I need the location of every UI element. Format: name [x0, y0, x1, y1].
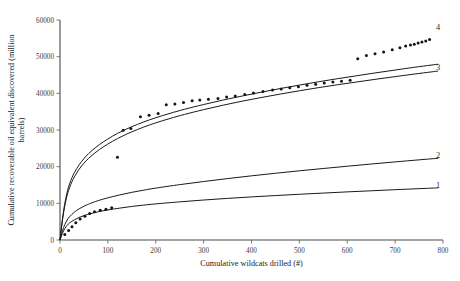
y-axis-tick-label: 30000: [36, 127, 54, 135]
data-point: [382, 50, 385, 53]
data-point: [365, 54, 368, 57]
data-point: [67, 229, 70, 232]
series-label-2: 2: [436, 151, 440, 160]
y-axis-tick-label: 20000: [36, 163, 54, 171]
plot-axes: [60, 20, 443, 240]
data-point: [122, 129, 125, 132]
data-point: [288, 86, 291, 89]
series-curve-2: [60, 158, 438, 240]
data-point: [104, 208, 107, 211]
data-point: [420, 41, 423, 44]
data-point: [110, 206, 113, 209]
y-axis-title-line-1: Cumulative recoverable oil equivalent di…: [7, 34, 16, 225]
data-point: [417, 42, 420, 45]
y-axis-tick-label: 0: [50, 237, 54, 245]
data-point: [165, 103, 168, 106]
data-point: [99, 209, 102, 212]
data-point: [234, 94, 237, 97]
data-point: [198, 98, 201, 101]
x-axis-tick-label: 800: [438, 247, 449, 255]
data-point: [280, 87, 283, 90]
data-point: [314, 83, 317, 86]
data-point: [148, 114, 151, 117]
data-point: [374, 52, 377, 55]
y-axis-tick-label: 60000: [36, 17, 54, 25]
x-axis-tick-label: 600: [342, 247, 353, 255]
data-point: [424, 39, 427, 42]
x-axis-tick-label: 500: [294, 247, 305, 255]
data-point: [182, 101, 185, 104]
data-point: [340, 80, 343, 83]
data-point: [116, 156, 119, 159]
data-point: [88, 212, 91, 215]
x-axis-tick-label: 200: [150, 247, 161, 255]
data-point: [93, 210, 96, 213]
data-point: [409, 43, 412, 46]
data-point: [323, 82, 326, 85]
data-point: [173, 102, 176, 105]
data-point: [404, 45, 407, 48]
data-point: [398, 46, 401, 49]
data-point: [356, 57, 359, 60]
data-point: [157, 112, 160, 115]
series-curve-3: [60, 71, 438, 240]
data-point: [191, 99, 194, 102]
data-point: [243, 93, 246, 96]
chart-figure: 0100002000030000400005000060000010020030…: [0, 0, 460, 281]
data-point: [129, 127, 132, 130]
y-axis-tick-label: 10000: [36, 200, 54, 208]
y-axis-tick-label: 40000: [36, 90, 54, 98]
series-label-4: 4: [436, 23, 441, 32]
data-point: [74, 221, 77, 224]
data-point: [252, 91, 255, 94]
data-point: [83, 215, 86, 218]
data-point: [297, 85, 300, 88]
data-point: [63, 233, 66, 236]
data-point: [70, 225, 73, 228]
data-point: [428, 38, 431, 41]
data-point: [413, 43, 416, 46]
data-point: [261, 90, 264, 93]
y-axis-title: Cumulative recoverable oil equivalent di…: [7, 34, 26, 225]
x-axis-tick-label: 400: [246, 247, 257, 255]
data-point: [79, 218, 82, 221]
data-point: [331, 80, 334, 83]
chart-canvas: 0100002000030000400005000060000010020030…: [0, 0, 460, 281]
x-axis-tick-label: 0: [58, 247, 62, 255]
data-point: [271, 89, 274, 92]
data-point: [207, 98, 210, 101]
x-axis-tick-label: 700: [390, 247, 401, 255]
y-axis-title-line-2: barrels): [17, 117, 26, 142]
series-curve-4: [60, 64, 438, 240]
data-point: [391, 48, 394, 51]
data-point: [225, 96, 228, 99]
x-axis-tick-label: 100: [102, 247, 113, 255]
data-point: [306, 84, 309, 87]
x-axis-tick-label: 300: [198, 247, 209, 255]
data-point: [349, 79, 352, 82]
data-point: [139, 115, 142, 118]
series-label-3: 3: [436, 63, 440, 72]
y-axis-tick-label: 50000: [36, 53, 54, 61]
x-axis-title: Cumulative wildcats drilled (#): [200, 259, 303, 268]
data-point: [216, 97, 219, 100]
series-label-1: 1: [436, 181, 440, 190]
